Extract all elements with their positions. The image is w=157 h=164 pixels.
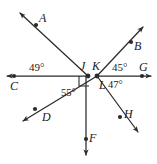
angle-label-47: 47° [108, 80, 123, 91]
dot-B [129, 40, 133, 44]
dot-F [84, 137, 88, 141]
dot-A [34, 23, 38, 27]
dot-G [140, 74, 144, 78]
point-label-A: A [39, 12, 46, 24]
point-label-B: B [134, 40, 141, 52]
point-label-J: J [80, 60, 85, 72]
point-label-L: L [99, 79, 106, 91]
point-label-D: D [42, 111, 51, 123]
point-label-G: G [139, 61, 148, 73]
point-label-F: F [89, 132, 96, 144]
geometry-canvas [0, 0, 157, 164]
angle-label-49: 49° [29, 62, 44, 73]
geometry-figure: A B C D F G H J K L 49° 45° 47° 55° [0, 0, 157, 164]
dot-J [86, 74, 91, 79]
point-label-K: K [92, 60, 100, 72]
dot-D [33, 107, 37, 111]
angle-label-55: 55° [61, 88, 76, 99]
point-dots [12, 23, 144, 141]
point-label-H: H [124, 108, 133, 120]
dot-H [118, 115, 122, 119]
angle-label-45: 45° [112, 62, 127, 73]
point-label-C: C [10, 80, 18, 92]
dot-C [12, 74, 16, 78]
